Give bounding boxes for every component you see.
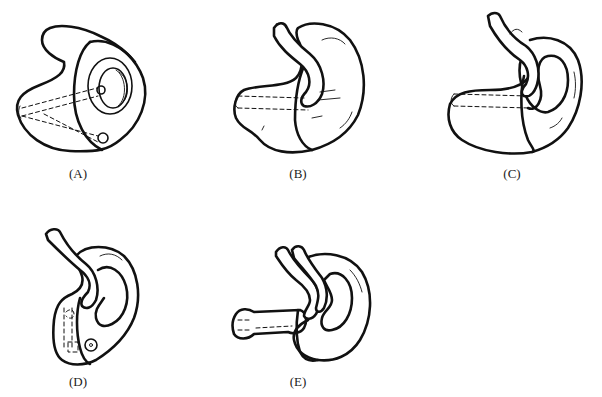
panel-d: (D) — [0, 200, 200, 397]
ear-mold-b-drawing — [200, 0, 400, 190]
ear-mold-d-drawing — [0, 200, 200, 397]
panel-e: (E) — [200, 200, 400, 397]
panel-c: (C) — [400, 0, 602, 190]
panel-label-c: (C) — [503, 166, 520, 182]
panel-label-d: (D) — [69, 374, 87, 390]
ear-mold-a-drawing — [0, 0, 200, 190]
ear-mold-c-drawing — [400, 0, 602, 190]
panel-a: (A) — [0, 0, 200, 190]
panel-label-e: (E) — [290, 374, 307, 390]
ear-mold-e-drawing — [200, 200, 400, 397]
panel-label-b: (B) — [289, 166, 306, 182]
panel-label-a: (A) — [69, 166, 87, 182]
panel-b: (B) — [200, 0, 400, 190]
